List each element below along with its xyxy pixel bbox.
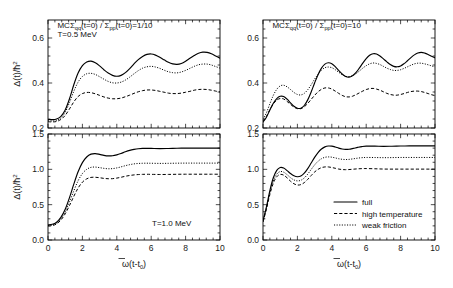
ytick-label: 1.0 bbox=[247, 164, 259, 174]
xtick-label: 0 bbox=[261, 243, 266, 253]
panel-annotation: T=0.5 MeV bbox=[57, 30, 97, 39]
series-high-temperature bbox=[263, 88, 435, 121]
annot-run: (t=0) / Σ bbox=[81, 21, 109, 30]
xtick-label: 4 bbox=[329, 243, 334, 253]
legend-label: high temperature bbox=[362, 210, 423, 219]
ytick-label: 0.6 bbox=[247, 33, 259, 43]
ytick-label: 0.6 bbox=[32, 33, 44, 43]
series-full bbox=[48, 52, 220, 120]
ylabel-exponent: 2 bbox=[11, 174, 18, 178]
xtick-label: 10 bbox=[430, 243, 440, 253]
xlabel-tail: ) bbox=[358, 259, 361, 269]
ylabel-main: Δ(t)/ħ bbox=[12, 65, 22, 87]
ytick-label: 0.4 bbox=[247, 78, 259, 88]
multi-panel-plot: 0.20.40.6MCΣqq(t=0) / Σpp(t=0)=1/10T=0.5… bbox=[0, 0, 453, 288]
series-full bbox=[48, 148, 220, 225]
panel-bottom-left: 0.00.51.01.50246810T=1.0 MeV bbox=[32, 129, 225, 253]
ytick-label: 1.5 bbox=[247, 129, 259, 139]
legend: fullhigh temperatureweak friction bbox=[334, 198, 423, 230]
panel-frame-top-right bbox=[263, 20, 435, 128]
xlabel-main: ω(t-t bbox=[337, 259, 356, 269]
panel-bottom-right: 0.00.51.01.50246810 bbox=[247, 129, 440, 253]
xtick-label: 4 bbox=[114, 243, 119, 253]
ylabel-exponent: 2 bbox=[11, 61, 18, 65]
xlabel-bottom-left: ω(t-t0) bbox=[122, 259, 146, 270]
ytick-label: 1.5 bbox=[32, 129, 44, 139]
annot-run: (t=0)=1/10 bbox=[116, 21, 153, 30]
xtick-label: 2 bbox=[295, 243, 300, 253]
xtick-label: 6 bbox=[364, 243, 369, 253]
ytick-label: 0.0 bbox=[247, 235, 259, 245]
panel-annotation: MCΣqq(t=0) / Σpp(t=0)=10 bbox=[272, 21, 361, 31]
annot-run: MCΣ bbox=[57, 21, 74, 30]
xtick-label: 0 bbox=[46, 243, 51, 253]
panel-top-left: 0.20.40.6MCΣqq(t=0) / Σpp(t=0)=1/10T=0.5… bbox=[32, 20, 220, 133]
ytick-label: 0.5 bbox=[247, 200, 259, 210]
series-weak-friction bbox=[48, 163, 220, 225]
panel-top-right: 0.20.40.6MCΣqq(t=0) / Σpp(t=0)=10 bbox=[247, 20, 435, 133]
xtick-label: 10 bbox=[215, 243, 225, 253]
annot-run: (t=0)=10 bbox=[331, 21, 362, 30]
ylabel-top: Δ(t)/ħ2 bbox=[11, 61, 22, 87]
xtick-label: 2 bbox=[80, 243, 85, 253]
xtick-label: 6 bbox=[149, 243, 154, 253]
ytick-label: 0.4 bbox=[32, 78, 44, 88]
xtick-label: 8 bbox=[183, 243, 188, 253]
annot-run: T=0.5 MeV bbox=[57, 30, 97, 39]
series-weak-friction bbox=[263, 63, 435, 119]
panel-annotation: T=1.0 MeV bbox=[152, 219, 192, 228]
series-weak-friction bbox=[48, 64, 220, 121]
ylabel-main: Δ(t)/ħ bbox=[12, 178, 22, 200]
ytick-label: 1.0 bbox=[32, 164, 44, 174]
xtick-label: 8 bbox=[398, 243, 403, 253]
xlabel-main: ω(t-t bbox=[122, 259, 141, 269]
legend-label: weak friction bbox=[361, 221, 406, 230]
curves-bottom-left bbox=[48, 148, 220, 226]
annot-run: T=1.0 MeV bbox=[152, 219, 192, 228]
annot-run: MCΣ bbox=[272, 21, 289, 30]
curves-top-left bbox=[48, 52, 220, 122]
ytick-label: 0.5 bbox=[32, 200, 44, 210]
annot-run: (t=0) / Σ bbox=[296, 21, 324, 30]
curves-top-right bbox=[263, 52, 435, 122]
series-high-temperature bbox=[48, 174, 220, 226]
legend-label: full bbox=[362, 198, 372, 207]
ylabel-bottom: Δ(t)/ħ2 bbox=[11, 174, 22, 200]
series-full bbox=[263, 52, 435, 122]
series-high-temperature bbox=[48, 89, 220, 122]
xlabel-bottom-right: ω(t-t0) bbox=[337, 259, 361, 270]
panel-frame-bottom-right bbox=[263, 134, 435, 240]
ytick-label: 0.0 bbox=[32, 235, 44, 245]
xlabel-tail: ) bbox=[143, 259, 146, 269]
figure-container: 0.20.40.6MCΣqq(t=0) / Σpp(t=0)=1/10T=0.5… bbox=[0, 0, 453, 288]
